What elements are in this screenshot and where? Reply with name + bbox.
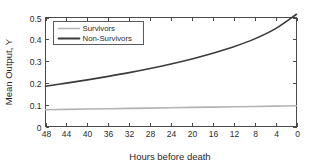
line-chart: 48444036322824201612840 00.10.20.30.40.5… — [0, 0, 309, 166]
y-axis-title: Mean Output, Y — [3, 38, 14, 105]
y-tick-label: 0.4 — [30, 35, 42, 45]
x-tick-label: 24 — [167, 129, 177, 139]
x-axis-tick-labels: 48444036322824201612840 — [42, 129, 300, 139]
series-line-survivors — [46, 106, 297, 110]
x-tick-label: 40 — [83, 129, 93, 139]
x-tick-label: 20 — [188, 129, 198, 139]
chart-figure: 48444036322824201612840 00.10.20.30.40.5… — [0, 0, 309, 166]
y-tick-label: 0.5 — [30, 14, 42, 24]
y-tick-label: 0.2 — [30, 79, 42, 89]
x-tick-label: 0 — [295, 129, 300, 139]
x-tick-label: 12 — [230, 129, 240, 139]
x-tick-label: 28 — [146, 129, 156, 139]
y-tick-label: 0 — [37, 123, 42, 133]
y-axis-tick-labels: 00.10.20.30.40.5 — [30, 14, 42, 133]
legend-label-1: Non-Survivors — [83, 34, 132, 43]
y-tick-label: 0.1 — [30, 101, 42, 111]
x-tick-label: 36 — [104, 129, 114, 139]
x-tick-label: 44 — [62, 129, 72, 139]
x-tick-label: 16 — [209, 129, 219, 139]
x-axis-title: Hours before death — [129, 151, 210, 162]
chart-legend: SurvivorsNon-Survivors — [54, 22, 144, 45]
x-tick-label: 48 — [42, 129, 52, 139]
x-tick-label: 8 — [253, 129, 258, 139]
x-tick-label: 4 — [274, 129, 279, 139]
legend-label-0: Survivors — [83, 24, 116, 33]
x-tick-label: 32 — [125, 129, 135, 139]
y-tick-label: 0.3 — [30, 57, 42, 67]
